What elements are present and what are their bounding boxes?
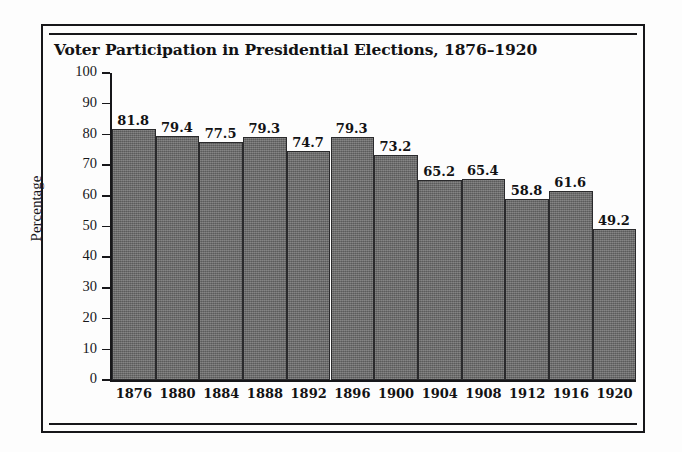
y-axis-tick-label: 70 bbox=[83, 155, 98, 172]
chart-figure: Voter Participation in Presidential Elec… bbox=[0, 0, 682, 452]
bar-value-label: 65.4 bbox=[467, 163, 499, 178]
bar-group[interactable]: 61.61916 bbox=[549, 74, 593, 380]
x-axis-line bbox=[110, 380, 636, 382]
bar[interactable]: 65.2 bbox=[418, 180, 462, 380]
x-axis-tick-label: 1888 bbox=[247, 386, 283, 401]
bar-value-label: 81.8 bbox=[117, 113, 149, 128]
x-axis-tick-label: 1920 bbox=[596, 386, 632, 401]
bar-group[interactable]: 79.41880 bbox=[156, 74, 200, 380]
y-axis-tick-label: 90 bbox=[83, 94, 98, 111]
x-axis-tick-label: 1908 bbox=[465, 386, 501, 401]
bar[interactable]: 61.6 bbox=[549, 191, 593, 380]
x-axis-tick-label: 1880 bbox=[159, 386, 195, 401]
bar-group[interactable]: 49.21920 bbox=[593, 74, 637, 380]
bar[interactable]: 77.5 bbox=[199, 142, 243, 380]
x-axis-tick-label: 1896 bbox=[334, 386, 370, 401]
y-axis-tick-label: 60 bbox=[83, 186, 98, 203]
y-axis-tick-label: 100 bbox=[75, 63, 97, 80]
y-axis-tick: 40 bbox=[102, 256, 110, 258]
bar-value-label: 79.4 bbox=[161, 120, 193, 135]
y-axis-tick-label: 50 bbox=[83, 217, 98, 234]
x-axis-tick-label: 1900 bbox=[378, 386, 414, 401]
bar-value-label: 79.3 bbox=[336, 121, 368, 136]
bar-group[interactable]: 79.31896 bbox=[331, 74, 375, 380]
bar-value-label: 77.5 bbox=[205, 126, 237, 141]
y-axis-tick: 100 bbox=[102, 72, 110, 74]
bar-group[interactable]: 74.71892 bbox=[287, 74, 331, 380]
bar-value-label: 58.8 bbox=[511, 183, 543, 198]
x-axis-tick-label: 1892 bbox=[291, 386, 327, 401]
bar-group[interactable]: 65.21904 bbox=[418, 74, 462, 380]
bar-value-label: 79.3 bbox=[248, 121, 280, 136]
bar-value-label: 61.6 bbox=[554, 175, 586, 190]
bar-group[interactable]: 58.81912 bbox=[505, 74, 549, 380]
bar[interactable]: 79.3 bbox=[243, 137, 287, 380]
bar[interactable]: 58.8 bbox=[505, 199, 549, 380]
y-axis-tick: 10 bbox=[102, 349, 110, 351]
bar[interactable]: 74.7 bbox=[287, 151, 331, 380]
bar-group[interactable]: 65.41908 bbox=[462, 74, 506, 380]
bar-group[interactable]: 79.31888 bbox=[243, 74, 287, 380]
bar-value-label: 49.2 bbox=[598, 213, 630, 228]
y-axis-tick-label: 0 bbox=[90, 370, 97, 387]
y-axis-tick: 0 bbox=[102, 379, 110, 381]
y-axis-tick-label: 10 bbox=[83, 340, 98, 357]
y-axis-tick-label: 40 bbox=[83, 247, 98, 264]
bar-group[interactable]: 73.21900 bbox=[374, 74, 418, 380]
page-title: Voter Participation in Presidential Elec… bbox=[54, 40, 634, 59]
x-axis-tick-label: 1916 bbox=[553, 386, 589, 401]
bar-value-label: 74.7 bbox=[292, 135, 324, 150]
frame-top-rule bbox=[49, 33, 637, 35]
plot-area: 81.8187679.4188077.5188479.3188874.71892… bbox=[111, 74, 636, 380]
y-axis-tick-label: 20 bbox=[83, 309, 98, 326]
x-axis-tick-label: 1904 bbox=[422, 386, 458, 401]
y-axis-tick: 80 bbox=[102, 134, 110, 136]
y-axis-label: Percentage bbox=[28, 149, 45, 269]
y-axis-tick: 20 bbox=[102, 318, 110, 320]
y-axis-tick: 90 bbox=[102, 103, 110, 105]
y-axis-tick: 70 bbox=[102, 164, 110, 166]
y-axis-tick: 60 bbox=[102, 195, 110, 197]
bar[interactable]: 81.8 bbox=[112, 129, 156, 380]
y-axis-tick-label: 80 bbox=[83, 125, 98, 142]
x-axis-tick-label: 1884 bbox=[203, 386, 239, 401]
bar[interactable]: 49.2 bbox=[593, 229, 637, 380]
y-axis-tick: 30 bbox=[102, 287, 110, 289]
y-axis-tick: 50 bbox=[102, 226, 110, 228]
y-axis-tick-label: 30 bbox=[83, 278, 98, 295]
bar[interactable]: 79.3 bbox=[331, 137, 375, 380]
bar-value-label: 73.2 bbox=[380, 139, 412, 154]
bar[interactable]: 79.4 bbox=[156, 136, 200, 380]
bar-group[interactable]: 77.51884 bbox=[199, 74, 243, 380]
bar-group[interactable]: 81.81876 bbox=[112, 74, 156, 380]
x-axis-tick-label: 1876 bbox=[116, 386, 152, 401]
frame-bottom-rule bbox=[49, 423, 637, 425]
bar[interactable]: 65.4 bbox=[462, 179, 506, 380]
bar[interactable]: 73.2 bbox=[374, 155, 418, 380]
x-axis-tick-label: 1912 bbox=[509, 386, 545, 401]
bar-value-label: 65.2 bbox=[423, 164, 455, 179]
